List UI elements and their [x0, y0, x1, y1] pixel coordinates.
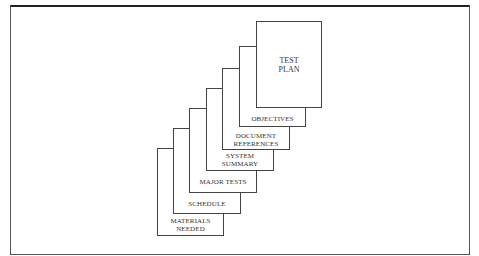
- page-label: DOCUMENT REFERENCES: [223, 132, 289, 148]
- label-line: MAJOR TESTS: [190, 178, 256, 186]
- page-label: MATERIALS NEEDED: [158, 217, 223, 233]
- label-line: TEST: [257, 56, 321, 65]
- page-test-plan: TEST PLAN: [256, 21, 322, 108]
- label-line: NEEDED: [158, 225, 223, 233]
- label-line: REFERENCES: [223, 140, 289, 148]
- page-label: SCHEDULE: [174, 200, 240, 208]
- label-line: MATERIALS: [158, 217, 223, 225]
- label-line: SCHEDULE: [174, 200, 240, 208]
- label-line: DOCUMENT: [223, 132, 289, 140]
- label-line: SUMMARY: [207, 160, 273, 168]
- label-line: PLAN: [257, 65, 321, 74]
- page-label: SYSTEM SUMMARY: [207, 152, 273, 168]
- page-label: OBJECTIVES: [240, 115, 305, 123]
- page-label: MAJOR TESTS: [190, 178, 256, 186]
- label-line: OBJECTIVES: [240, 115, 305, 123]
- page-label: TEST PLAN: [257, 56, 321, 74]
- label-line: SYSTEM: [207, 152, 273, 160]
